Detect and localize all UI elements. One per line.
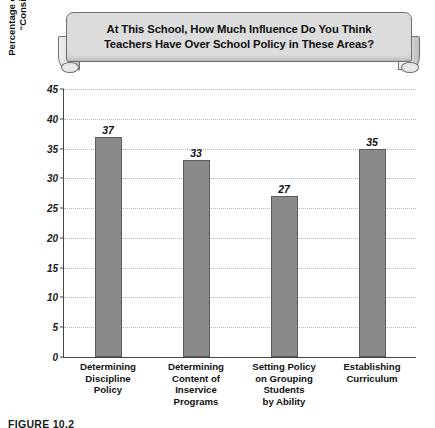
y-axis-tick-mark xyxy=(60,237,64,238)
y-axis-tick-mark xyxy=(60,297,64,298)
y-axis-tick-label: 10 xyxy=(47,292,58,303)
bar-value-label: 37 xyxy=(102,124,114,136)
y-axis-tick-label: 20 xyxy=(47,232,58,243)
bar: 27Setting Policy on Grouping Students by… xyxy=(271,196,298,357)
gridline xyxy=(64,89,416,90)
bar-chart: Percentage of Teachers Responding “Consi… xyxy=(0,0,435,428)
gridline xyxy=(64,119,416,120)
y-axis-title: Percentage of Teachers Responding “Consi… xyxy=(8,0,26,107)
bar: 35Establishing Curriculum xyxy=(359,149,386,357)
y-axis-tick-mark xyxy=(60,208,64,209)
bar: 37Determining Discipline Policy xyxy=(95,137,122,357)
y-axis-tick-label: 45 xyxy=(47,84,58,95)
y-axis-tick-label: 35 xyxy=(47,143,58,154)
y-axis-tick-mark xyxy=(60,357,64,358)
x-axis-category-label: Determining Content of Inservice Program… xyxy=(154,361,238,407)
y-axis-tick-label: 5 xyxy=(52,322,58,333)
y-axis-tick-label: 0 xyxy=(52,352,58,363)
x-axis-category-label: Establishing Curriculum xyxy=(330,361,414,384)
y-axis-tick-label: 15 xyxy=(47,262,58,273)
y-axis-tick-mark xyxy=(60,118,64,119)
x-axis-category-label: Determining Discipline Policy xyxy=(66,361,150,396)
bar-value-label: 33 xyxy=(190,147,202,159)
bar: 33Determining Content of Inservice Progr… xyxy=(183,160,210,357)
y-axis-tick-mark xyxy=(60,178,64,179)
y-axis-tick-mark xyxy=(60,267,64,268)
y-axis-tick-label: 30 xyxy=(47,173,58,184)
plot-area: 05101520253035404537Determining Discipli… xyxy=(63,89,416,358)
x-axis-category-label: Setting Policy on Grouping Students by A… xyxy=(242,361,326,407)
y-axis-tick-mark xyxy=(60,89,64,90)
bar-value-label: 35 xyxy=(366,136,378,148)
y-axis-tick-label: 40 xyxy=(47,113,58,124)
bar-value-label: 27 xyxy=(278,183,290,195)
y-axis-tick-label: 25 xyxy=(47,203,58,214)
y-axis-tick-mark xyxy=(60,327,64,328)
y-axis-tick-mark xyxy=(60,148,64,149)
figure-caption: FIGURE 10.2 xyxy=(8,418,74,428)
